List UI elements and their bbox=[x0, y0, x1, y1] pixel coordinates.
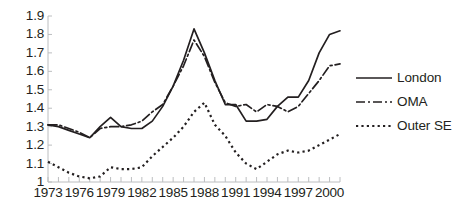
y-tick-label: 1.9 bbox=[2, 9, 44, 23]
x-tick-label: 1997 bbox=[284, 186, 313, 200]
series-line-outer-se bbox=[48, 103, 340, 179]
x-axis-tick-labels: 1973197619791982198519881991199419972000 bbox=[0, 186, 348, 212]
legend-item-outer-se: Outer SE bbox=[356, 114, 453, 138]
legend-label: Outer SE bbox=[397, 119, 452, 133]
x-tick-label: 1985 bbox=[159, 186, 188, 200]
legend-swatch-dotted-icon bbox=[356, 120, 392, 132]
y-tick-label: 1.4 bbox=[2, 101, 44, 115]
x-tick-label: 1973 bbox=[33, 186, 62, 200]
series-line-oma bbox=[48, 40, 340, 138]
legend-swatch-solid-icon bbox=[356, 72, 392, 84]
y-axis-tick-labels: 1.91.81.71.61.51.41.31.21.11 bbox=[0, 0, 44, 196]
x-tick-label: 1976 bbox=[65, 186, 94, 200]
x-tick-label: 2000 bbox=[315, 186, 344, 200]
data-series-group bbox=[48, 29, 340, 178]
y-tick-label: 1.3 bbox=[2, 120, 44, 134]
legend-label: OMA bbox=[397, 95, 427, 109]
legend-swatch-dash-dot-icon bbox=[356, 96, 392, 108]
y-tick-label: 1.2 bbox=[2, 138, 44, 152]
legend-item-oma: OMA bbox=[356, 90, 453, 114]
y-tick-label: 1.1 bbox=[2, 157, 44, 171]
series-line-london bbox=[48, 29, 340, 138]
y-tick-label: 1.6 bbox=[2, 64, 44, 78]
x-tick-label: 1988 bbox=[190, 186, 219, 200]
x-tick-label: 1982 bbox=[127, 186, 156, 200]
legend-item-london: London bbox=[356, 66, 453, 90]
x-tick-label: 1991 bbox=[221, 186, 250, 200]
line-chart-canvas bbox=[0, 0, 348, 196]
y-tick-label: 1.7 bbox=[2, 46, 44, 60]
x-tick-label: 1994 bbox=[252, 186, 281, 200]
x-tick-label: 1979 bbox=[96, 186, 125, 200]
plot-area bbox=[0, 0, 348, 196]
chart-legend: LondonOMAOuter SE bbox=[356, 66, 453, 138]
y-tick-label: 1.5 bbox=[2, 83, 44, 97]
y-tick-label: 1.8 bbox=[2, 27, 44, 41]
chart-figure: 1.91.81.71.61.51.41.31.21.11 19731976197… bbox=[0, 0, 453, 218]
legend-label: London bbox=[397, 71, 441, 85]
